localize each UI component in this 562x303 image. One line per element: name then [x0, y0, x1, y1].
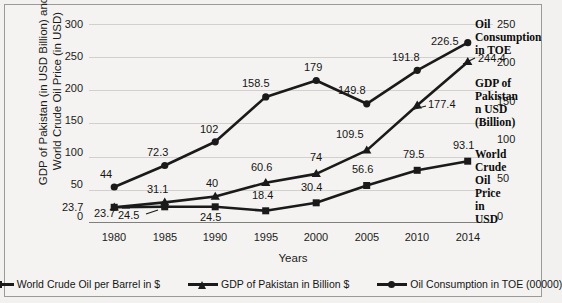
marker-crude-2005 — [363, 182, 370, 189]
y-tick-right-100: 100 — [497, 134, 537, 145]
marker-oil-2000 — [313, 77, 320, 84]
marker-crude-2010 — [414, 167, 421, 174]
annotation-oil-consumption: Oil Consumption in TOE — [475, 18, 541, 57]
leader-crude-1985 — [146, 210, 158, 214]
marker-oil-2005 — [363, 100, 370, 107]
marker-oil-1980 — [111, 183, 118, 190]
legend-label-gdp: GDP of Pakistan in Billion $ — [221, 278, 349, 290]
x-tick-2014: 2014 — [438, 232, 498, 243]
marker-crude-2014 — [464, 158, 471, 165]
label-crude-2005: 56.6 — [352, 164, 373, 175]
x-axis-title: Years — [253, 252, 333, 264]
marker-oil-1990 — [212, 138, 219, 145]
legend-label-oil-consumption: Oil Consumption in TOE (00000) — [410, 278, 562, 290]
label-gdp-1980: 23.7 — [94, 208, 115, 219]
marker-oil-2014 — [464, 39, 471, 46]
y-tick-left-100: 100 — [43, 147, 83, 158]
label-oil-2005: 149.8 — [338, 85, 366, 96]
y-tick-left-250: 250 — [43, 51, 83, 62]
label-gdp-2005: 109.5 — [336, 129, 364, 140]
label-oil-1980: 44 — [100, 169, 112, 180]
label-crude-2014: 93.1 — [453, 140, 474, 151]
marker-crude-1995 — [262, 207, 269, 214]
label-oil-1995: 158.5 — [242, 78, 270, 89]
label-gdp-2000: 74 — [310, 152, 322, 163]
marker-crude-1985 — [161, 203, 168, 210]
label-oil-2000: 179 — [304, 62, 322, 73]
y-tick-left-150: 150 — [43, 115, 83, 126]
legend-triangle-marker-icon — [188, 278, 218, 290]
label-crude-2010: 79.5 — [403, 149, 424, 160]
label-oil-1990: 102 — [200, 124, 218, 135]
marker-crude-2000 — [313, 199, 320, 206]
annotation-gdp-pakistan: GDP of Pakistan n USD (Billion) — [475, 77, 518, 129]
legend-item-gdp[interactable]: GDP of Pakistan in Billion $ — [188, 278, 349, 290]
label-gdp-1985: 31.1 — [147, 184, 168, 195]
label-crude-1995: 18.4 — [252, 190, 273, 201]
marker-oil-1995 — [262, 93, 269, 100]
legend-label-crude-oil: World Crude Oil per Barrel in $ — [17, 278, 160, 290]
label-crude-1985: 24.5 — [118, 210, 139, 221]
annotation-crude-price: World Crude Oil Price in USD — [475, 148, 506, 226]
label-oil-1985: 72.3 — [147, 147, 168, 158]
chart-legend: World Crude Oil per Barrel in $ GDP of P… — [4, 272, 542, 296]
label-gdp-1990: 40 — [206, 178, 218, 189]
y-tick-left-50: 50 — [43, 179, 83, 190]
label-oil-2010: 191.8 — [392, 52, 420, 63]
label-crude-1980: 23.7 — [62, 202, 83, 213]
label-crude-2000: 30.4 — [301, 182, 322, 193]
marker-oil-2010 — [414, 67, 421, 74]
y-tick-left-200: 200 — [43, 83, 83, 94]
legend-circle-marker-icon — [377, 278, 407, 290]
legend-item-crude-oil[interactable]: World Crude Oil per Barrel in $ — [0, 278, 160, 290]
label-crude-1990: 24.5 — [200, 212, 221, 223]
legend-item-oil-consumption[interactable]: Oil Consumption in TOE (00000) — [377, 278, 562, 290]
y-tick-left-300: 300 — [43, 19, 83, 30]
label-oil-2014: 226.5 — [431, 36, 459, 47]
marker-oil-1985 — [161, 162, 168, 169]
legend-square-marker-icon — [0, 278, 14, 290]
marker-crude-1990 — [212, 203, 219, 210]
label-gdp-2010: 177.4 — [428, 99, 456, 110]
plot-area: 44 72.3 102 158.5 179 149.8 191.8 226.5 … — [89, 24, 493, 223]
label-gdp-1995: 60.6 — [251, 162, 272, 173]
chart-frame: GDP of Pakistan (in USD Billion) and Wor… — [4, 4, 542, 297]
